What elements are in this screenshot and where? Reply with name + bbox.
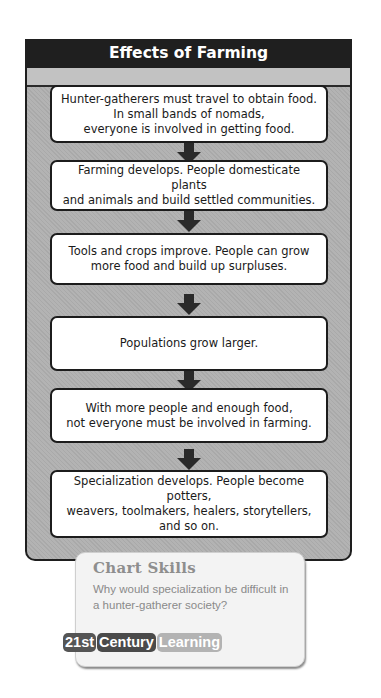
badge-part-learning: Learning (157, 633, 222, 652)
step-box-1: Hunter-gatherers must travel to obtain f… (50, 85, 328, 143)
down-arrow-icon (177, 211, 201, 233)
step-box-4: Populations grow larger. (50, 316, 328, 371)
step-box-3: Tools and crops improve. People can grow… (50, 233, 328, 285)
step-box-2: Farming develops. People domesticate pla… (50, 160, 328, 211)
step-box-5: With more people and enough food, not ev… (50, 388, 328, 443)
down-arrow-icon (177, 449, 201, 471)
flowchart-panel: Effects of Farming Hunter-gatherers must… (25, 39, 352, 561)
21st-century-learning-badge: 21st Century Learning (63, 633, 222, 652)
chart-skills-title: Chart Skills (93, 559, 196, 577)
chart-title: Effects of Farming (25, 39, 352, 68)
badge-part-century: Century (97, 633, 156, 652)
step-box-6: Specialization develops. People become p… (50, 470, 328, 538)
badge-part-21st: 21st (63, 633, 96, 652)
down-arrow-icon (177, 294, 201, 316)
chart-skills-question: Why would specialization be difficult in… (93, 581, 293, 613)
